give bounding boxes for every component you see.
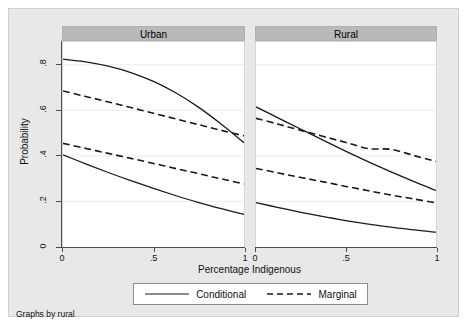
x-axis-tick xyxy=(437,248,438,252)
plot-panel-rural xyxy=(255,41,437,247)
series-line-conditional-0 xyxy=(256,107,436,191)
panel-header-rural: Rural xyxy=(255,26,437,41)
y-axis-line xyxy=(61,41,62,248)
y-axis-title: Probability xyxy=(19,97,30,187)
y-axis-label: .6 xyxy=(38,98,48,120)
panel-header-urban: Urban xyxy=(62,26,245,41)
series-line-marginal-1 xyxy=(63,91,244,136)
graph-note: Graphs by rural xyxy=(16,309,75,319)
plot-panel-urban xyxy=(62,41,245,247)
series-line-conditional-3 xyxy=(256,203,436,233)
x-axis-tick xyxy=(62,248,63,252)
screenshot-root: Urban Rural Probability Percentage Indig… xyxy=(0,0,475,334)
series-line-marginal-2 xyxy=(256,168,436,202)
legend-key-solid xyxy=(144,290,190,298)
y-axis-tick xyxy=(56,110,61,111)
legend-label-marginal: Marginal xyxy=(318,289,356,300)
legend-label-conditional: Conditional xyxy=(196,289,246,300)
legend-key-dashed xyxy=(266,290,312,298)
x-axis-tick xyxy=(154,248,155,252)
plot-lines-rural xyxy=(256,42,436,247)
x-axis-tick xyxy=(245,248,246,252)
series-line-conditional-0 xyxy=(63,59,244,143)
x-axis-label: 0 xyxy=(52,253,72,263)
y-axis-label: .4 xyxy=(38,143,48,165)
series-line-marginal-1 xyxy=(256,118,436,161)
x-axis-title: Percentage Indigenous xyxy=(62,264,437,275)
y-axis-tick xyxy=(56,201,61,202)
legend: Conditional Marginal xyxy=(133,283,368,305)
x-axis-label: .5 xyxy=(336,253,356,263)
y-axis-label: 0 xyxy=(38,235,48,257)
x-axis-label: .5 xyxy=(144,253,164,263)
y-axis-tick xyxy=(56,155,61,156)
x-axis-tick xyxy=(346,248,347,252)
x-axis-label: 0 xyxy=(245,253,265,263)
y-axis-tick xyxy=(56,247,61,248)
y-axis-label: .8 xyxy=(38,52,48,74)
legend-item-marginal: Marginal xyxy=(266,289,356,300)
series-line-marginal-2 xyxy=(63,143,244,184)
y-axis-label: .2 xyxy=(38,189,48,211)
x-axis-label: 1 xyxy=(427,253,447,263)
y-axis-tick xyxy=(56,64,61,65)
x-axis-tick xyxy=(255,248,256,252)
plot-lines-urban xyxy=(63,42,244,247)
legend-item-conditional: Conditional xyxy=(144,289,246,300)
